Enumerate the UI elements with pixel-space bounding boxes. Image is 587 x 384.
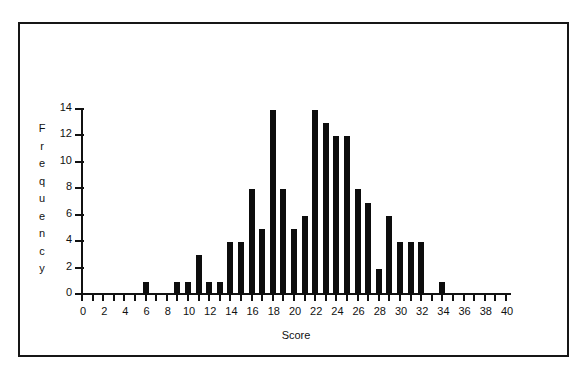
bar <box>249 189 255 295</box>
x-axis-tick-label: 10 <box>178 305 200 318</box>
x-axis-tick-label: 2 <box>93 305 115 318</box>
bar <box>376 269 382 295</box>
bar <box>302 216 308 295</box>
bar <box>333 136 339 295</box>
x-axis-tick-label: 34 <box>432 305 454 318</box>
bar <box>386 216 392 295</box>
plot-area: Frequency 02468101214 024681012141618202… <box>20 24 571 359</box>
x-axis-tick-label: 28 <box>369 305 391 318</box>
bar <box>185 282 191 295</box>
x-axis-tick-label: 36 <box>454 305 476 318</box>
bar <box>217 282 223 295</box>
bar <box>418 242 424 295</box>
bar <box>344 136 350 295</box>
x-axis-tick-label: 38 <box>475 305 497 318</box>
x-axis-tick-label: 16 <box>242 305 264 318</box>
x-axis-title: Score <box>81 329 511 341</box>
x-axis-tick-label: 4 <box>114 305 136 318</box>
bar <box>312 110 318 295</box>
x-axis-tick-label: 26 <box>348 305 370 318</box>
x-axis-tick-label: 30 <box>390 305 412 318</box>
x-axis-tick-label: 12 <box>199 305 221 318</box>
bar <box>270 110 276 295</box>
bar <box>365 203 371 296</box>
bar <box>143 282 149 295</box>
bar <box>227 242 233 295</box>
x-axis-tick-label: 6 <box>136 305 158 318</box>
bar <box>408 242 414 295</box>
bar <box>280 189 286 295</box>
x-axis-tick-label: 22 <box>305 305 327 318</box>
x-axis-tick-label: 0 <box>72 305 94 318</box>
bars-layer <box>20 24 571 295</box>
bar <box>397 242 403 295</box>
bar <box>196 255 202 295</box>
bar <box>323 123 329 295</box>
x-axis-tick-label: 24 <box>326 305 348 318</box>
bar <box>206 282 212 295</box>
bar <box>291 229 297 295</box>
x-axis-tick-label: 8 <box>157 305 179 318</box>
bar <box>174 282 180 295</box>
figure-frame: Frequency 02468101214 024681012141618202… <box>18 22 569 357</box>
x-axis-tick-label: 14 <box>220 305 242 318</box>
x-axis-tick-label: 32 <box>411 305 433 318</box>
x-axis-tick-label: 20 <box>284 305 306 318</box>
bar <box>439 282 445 295</box>
bar <box>238 242 244 295</box>
x-axis-tick-label: 18 <box>263 305 285 318</box>
bar <box>355 189 361 295</box>
bar <box>259 229 265 295</box>
x-axis-tick-label: 40 <box>496 305 518 318</box>
